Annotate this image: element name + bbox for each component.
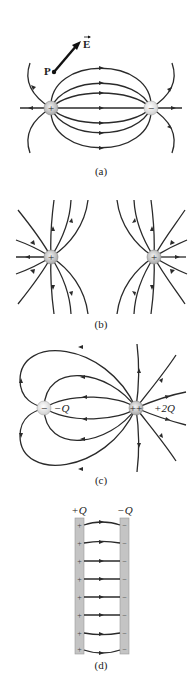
plate-label-pos: +Q: [71, 504, 86, 516]
positive-sign: +: [151, 251, 157, 263]
svg-text:−: −: [122, 629, 127, 638]
svg-text:+: +: [77, 575, 82, 584]
svg-text:+: +: [77, 557, 82, 566]
svg-text:+: +: [77, 521, 82, 530]
panel-a-dipole: + − P E (a): [20, 36, 182, 179]
svg-text:−: −: [122, 557, 127, 566]
svg-text:−: −: [122, 521, 127, 530]
charge-label-neg-q: −Q: [54, 402, 69, 414]
charge-label-pos-2q: +2Q: [154, 402, 175, 414]
caption-d: (d): [95, 659, 108, 672]
svg-text:+: +: [77, 645, 82, 654]
e-vector-label: E: [83, 38, 90, 50]
caption-c: (c): [95, 474, 108, 487]
svg-text:+: +: [77, 629, 82, 638]
double-positive-sign: ++: [130, 402, 142, 414]
caption-b: (b): [95, 318, 108, 331]
svg-text:+: +: [77, 611, 82, 620]
panel-b-like-charges: + + (b): [16, 200, 187, 331]
svg-text:−: −: [122, 611, 127, 620]
negative-sign: −: [148, 102, 154, 114]
negative-sign: −: [41, 402, 47, 414]
positive-sign: +: [48, 251, 54, 263]
svg-text:−: −: [122, 645, 127, 654]
caption-a: (a): [95, 165, 108, 178]
field-lines-figure: + − P E (a): [0, 0, 193, 674]
svg-text:+: +: [77, 539, 82, 548]
svg-text:−: −: [122, 539, 127, 548]
panel-d-parallel-plates: +Q −Q ++++ ++++ −−−− −−−− (d): [71, 504, 132, 672]
plate-label-neg: −Q: [117, 504, 132, 516]
svg-text:−: −: [122, 593, 127, 602]
positive-sign: +: [48, 102, 54, 114]
panel-c-unequal-charges: − −Q ++ +2Q (c): [19, 344, 186, 487]
svg-text:+: +: [77, 593, 82, 602]
svg-text:−: −: [122, 575, 127, 584]
point-p-label: P: [44, 65, 51, 77]
